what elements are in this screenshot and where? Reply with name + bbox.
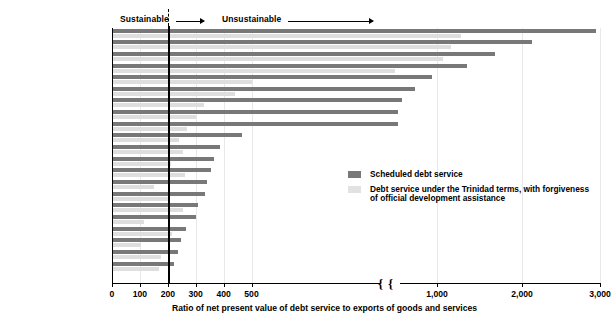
bar-row [112,238,600,250]
legend-item-scheduled: Scheduled debt service [348,170,598,180]
bar-trinidad [112,103,204,107]
bar-trinidad [112,127,187,131]
bar-scheduled [112,110,398,114]
unsustainable-arrow-icon [288,21,373,22]
x-tick-label: 3,000 [589,289,611,299]
bar-trinidad [112,92,235,96]
bar-scheduled [112,40,532,44]
bar-scheduled [112,180,207,184]
bar-scheduled [112,168,211,172]
x-tick [600,283,601,287]
bar-row [112,121,600,133]
legend-label-trinidad: Debt service under the Trinidad terms, w… [370,185,598,204]
x-axis-line [112,283,600,284]
bar-row [112,86,600,98]
bar-scheduled [112,157,214,161]
gridline [600,28,601,283]
legend-swatch-trinidad [348,186,361,193]
x-tick-label: 0 [110,289,115,299]
x-tick [522,283,523,287]
x-tick-label: 500 [244,289,258,299]
bar-row [112,40,600,52]
bar-scheduled [112,75,432,79]
bar-scheduled [112,98,402,102]
x-tick-label: 200 [161,289,175,299]
bar-trinidad [112,267,159,271]
bar-row [112,110,600,122]
bar-scheduled [112,238,181,242]
axis-break-icon: { { [378,275,402,291]
debt-service-bar-chart: Sustainable Unsustainable SomaliaGuinea-… [0,0,613,321]
bar-scheduled [112,145,220,149]
x-tick [437,283,438,287]
bar-scheduled [112,64,467,68]
x-tick-label: 1,000 [426,289,448,299]
bar-trinidad [112,69,395,73]
bar-row [112,214,600,226]
bar-trinidad [112,80,252,84]
bar-row [112,249,600,261]
x-tick [252,283,253,287]
bar-row [112,226,600,238]
bar-scheduled [112,87,415,91]
bar-scheduled [112,29,596,33]
x-axis-title: Ratio of net present value of debt servi… [18,303,613,313]
legend-label-scheduled: Scheduled debt service [370,170,598,180]
y-axis-line [112,28,113,284]
sustainable-arrow-icon [176,21,204,22]
threshold-dashed-divider [168,9,169,26]
bar-row [112,28,600,40]
bar-scheduled [112,262,174,266]
legend-swatch-scheduled [348,171,361,178]
bar-row [112,51,600,63]
bar-trinidad [112,173,185,177]
bar-trinidad [112,255,161,259]
bar-trinidad [112,57,443,61]
x-tick-label: 2,000 [511,289,533,299]
bar-trinidad [112,34,461,38]
bar-row [112,98,600,110]
legend: Scheduled debt service Debt service unde… [348,170,598,209]
bar-scheduled [112,227,186,231]
bar-scheduled [112,215,196,219]
x-tick-label: 100 [133,289,147,299]
bar-trinidad [112,45,451,49]
x-tick [112,283,113,287]
legend-item-trinidad: Debt service under the Trinidad terms, w… [348,185,598,204]
sustainable-annotation: Sustainable [120,14,169,24]
bar-row [112,261,600,273]
x-tick-label: 300 [189,289,203,299]
threshold-line-200 [168,26,170,284]
x-tick [224,283,225,287]
x-tick-label: 400 [216,289,230,299]
bar-trinidad [112,185,154,189]
bar-trinidad [112,243,141,247]
bar-row [112,145,600,157]
x-tick [140,283,141,287]
bar-trinidad [112,115,196,119]
plot-area [112,28,600,282]
bar-trinidad [112,197,169,201]
x-tick [196,283,197,287]
bar-scheduled [112,122,398,126]
unsustainable-annotation: Unsustainable [222,14,281,24]
bar-trinidad [112,208,183,212]
bar-scheduled [112,192,205,196]
bar-trinidad [112,162,171,166]
bar-scheduled [112,203,198,207]
bar-row [112,75,600,87]
x-tick [168,283,169,287]
bar-scheduled [112,133,242,137]
bar-trinidad [112,150,183,154]
bar-row [112,63,600,75]
bar-row [112,156,600,168]
bar-trinidad [112,232,172,236]
bar-trinidad [112,220,144,224]
bar-row [112,133,600,145]
